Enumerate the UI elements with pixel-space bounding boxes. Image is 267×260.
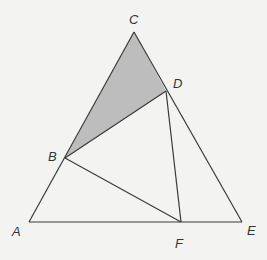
segment-ac (29, 32, 134, 222)
label-e: E (247, 224, 256, 237)
segment-ce (134, 32, 242, 222)
label-d: D (173, 77, 182, 90)
label-b: B (48, 150, 57, 163)
label-c: C (129, 13, 138, 26)
shaded-triangle-bcd (65, 32, 166, 158)
label-f: F (175, 237, 183, 250)
segment-bf (65, 158, 181, 222)
geometry-diagram (0, 0, 267, 260)
label-a: A (12, 225, 21, 238)
